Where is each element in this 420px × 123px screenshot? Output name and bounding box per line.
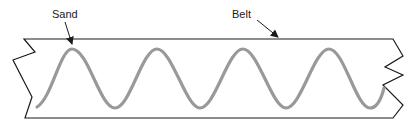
belt-label: Belt [232,9,251,20]
sand-label: Sand [52,9,78,20]
belt-outline [13,39,403,118]
diagram-canvas: Sand Belt [0,0,420,123]
sand-wave [37,49,384,108]
belt-arrow [257,20,278,37]
sand-arrow [65,22,72,44]
